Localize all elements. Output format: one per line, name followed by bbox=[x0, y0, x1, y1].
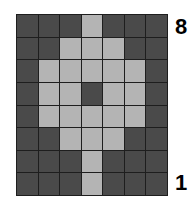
grid-cell bbox=[103, 60, 124, 82]
grid-cell bbox=[39, 15, 60, 37]
grid-cell bbox=[146, 173, 167, 195]
grid-cell bbox=[39, 128, 60, 150]
grid-cell bbox=[60, 128, 81, 150]
grid-cell bbox=[17, 151, 38, 173]
grid-cell bbox=[125, 151, 146, 173]
grid-cell bbox=[60, 83, 81, 105]
grid-cell bbox=[82, 151, 103, 173]
grid-cell bbox=[82, 15, 103, 37]
grid-cell bbox=[146, 15, 167, 37]
grid-cell bbox=[146, 83, 167, 105]
grid-cell bbox=[60, 38, 81, 60]
grid-cell bbox=[125, 173, 146, 195]
row-label-bottom: 1 bbox=[175, 172, 187, 194]
pixel-grid bbox=[16, 14, 168, 196]
grid-cell bbox=[125, 106, 146, 128]
grid-cell bbox=[17, 60, 38, 82]
grid-cell bbox=[82, 60, 103, 82]
grid-cell bbox=[60, 106, 81, 128]
grid-cell bbox=[103, 151, 124, 173]
grid-cell bbox=[17, 128, 38, 150]
grid-cell bbox=[17, 15, 38, 37]
grid-cell bbox=[146, 38, 167, 60]
grid-cell bbox=[103, 128, 124, 150]
grid-cell bbox=[17, 38, 38, 60]
row-label-top: 8 bbox=[175, 16, 187, 38]
grid-cell bbox=[39, 83, 60, 105]
grid-cell bbox=[17, 83, 38, 105]
grid-cell bbox=[146, 60, 167, 82]
grid-cell bbox=[39, 106, 60, 128]
grid-cell bbox=[146, 151, 167, 173]
grid-cell bbox=[82, 128, 103, 150]
grid-cell bbox=[125, 128, 146, 150]
grid-cell bbox=[125, 60, 146, 82]
grid-cell bbox=[103, 106, 124, 128]
grid-cell bbox=[17, 173, 38, 195]
grid-cell bbox=[103, 15, 124, 37]
grid-cell bbox=[103, 38, 124, 60]
grid-cell bbox=[125, 15, 146, 37]
grid-cell bbox=[39, 60, 60, 82]
grid-cell bbox=[146, 128, 167, 150]
grid-cell bbox=[146, 106, 167, 128]
grid-cell bbox=[60, 15, 81, 37]
grid-cell bbox=[60, 151, 81, 173]
grid-cell bbox=[125, 83, 146, 105]
grid-cell bbox=[125, 38, 146, 60]
grid-cell bbox=[60, 60, 81, 82]
grid-cell bbox=[39, 173, 60, 195]
grid-cell bbox=[60, 173, 81, 195]
grid-cell bbox=[82, 38, 103, 60]
grid-cell bbox=[17, 106, 38, 128]
grid-cell bbox=[39, 38, 60, 60]
grid-cell bbox=[39, 151, 60, 173]
grid-cell bbox=[103, 173, 124, 195]
grid-cell bbox=[82, 173, 103, 195]
grid-cell bbox=[82, 83, 103, 105]
grid-cell bbox=[103, 83, 124, 105]
grid-cell bbox=[82, 106, 103, 128]
